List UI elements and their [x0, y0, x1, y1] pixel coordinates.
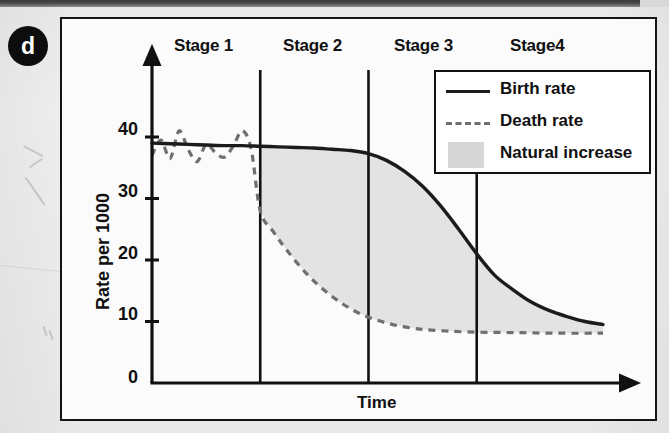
y-tick-label-0: 0 — [108, 367, 138, 388]
stage-label-1: Stage 1 — [174, 36, 233, 56]
chart-legend: Birth rate Death rate Natural increase — [434, 70, 651, 174]
y-tick-label-40: 40 — [108, 119, 138, 140]
legend-swatch-fill-box-icon — [444, 139, 492, 171]
figure-page: d Stage 1 Stage 2 Stage 3 Stage4 0 10 20… — [0, 0, 669, 433]
legend-item-birth-rate: Birth rate — [444, 75, 646, 107]
legend-item-natural-increase: Natural increase — [444, 139, 646, 171]
legend-swatch-solid-line-icon — [444, 75, 492, 107]
stage-label-3: Stage 3 — [394, 36, 453, 56]
legend-label-death-rate: Death rate — [500, 111, 583, 131]
legend-label-birth-rate: Birth rate — [500, 79, 576, 99]
y-axis-title: Rate per 1000 — [93, 193, 114, 310]
legend-item-death-rate: Death rate — [444, 107, 646, 139]
legend-swatch-dashed-line-icon — [444, 107, 492, 139]
stage-label-2: Stage 2 — [283, 36, 342, 56]
natural-increase-area — [260, 146, 603, 333]
stage-label-4: Stage4 — [510, 36, 565, 56]
legend-label-natural-increase: Natural increase — [500, 143, 632, 163]
x-axis-title: Time — [357, 393, 396, 413]
